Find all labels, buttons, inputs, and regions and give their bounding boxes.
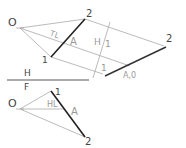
label-a0-aux: A,0 xyxy=(123,71,136,80)
label-a-top: A xyxy=(70,36,77,47)
line-o-a-top xyxy=(20,28,130,66)
label-o-top: O xyxy=(8,16,17,29)
label-fold-1: 1 xyxy=(105,39,111,49)
label-2-aux: 2 xyxy=(166,33,172,44)
line-o-1-top xyxy=(20,28,51,57)
label-1-aux: 1 xyxy=(101,63,107,73)
label-2-top: 2 xyxy=(86,8,92,19)
label-1-top: 1 xyxy=(42,55,48,65)
top-view-thin-lines xyxy=(16,19,164,78)
label-o-front: O xyxy=(8,97,17,110)
label-a-front: A xyxy=(71,106,78,117)
label-hl: HL xyxy=(47,100,58,109)
line-o-2-top xyxy=(20,19,85,28)
diagram-svg: O 2 1 TL A H 1 2 1 A,0 H F O 1 2 HL A xyxy=(0,0,186,148)
diagram-canvas: O 2 1 TL A H 1 2 1 A,0 H F O 1 2 HL A xyxy=(0,0,186,148)
label-2-front: 2 xyxy=(85,136,91,147)
label-1-front: 1 xyxy=(55,87,61,97)
label-tl: TL xyxy=(48,29,61,41)
label-fold-h: H xyxy=(94,37,101,47)
label-f: F xyxy=(24,82,29,92)
label-h: H xyxy=(24,68,31,78)
